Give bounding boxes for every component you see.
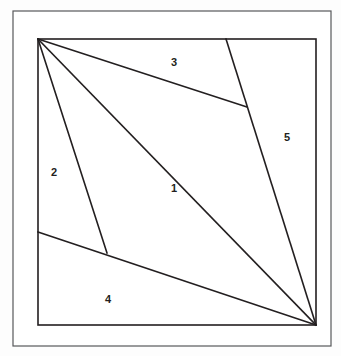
region-label-1: 1 [171, 182, 177, 194]
region-label-4: 4 [105, 293, 112, 305]
diagram-container: 1 2 3 4 5 [0, 0, 341, 356]
geometry-diagram: 1 2 3 4 5 [0, 0, 341, 356]
region-label-3: 3 [171, 56, 177, 68]
region-label-2: 2 [51, 166, 57, 178]
region-label-5: 5 [284, 131, 290, 143]
